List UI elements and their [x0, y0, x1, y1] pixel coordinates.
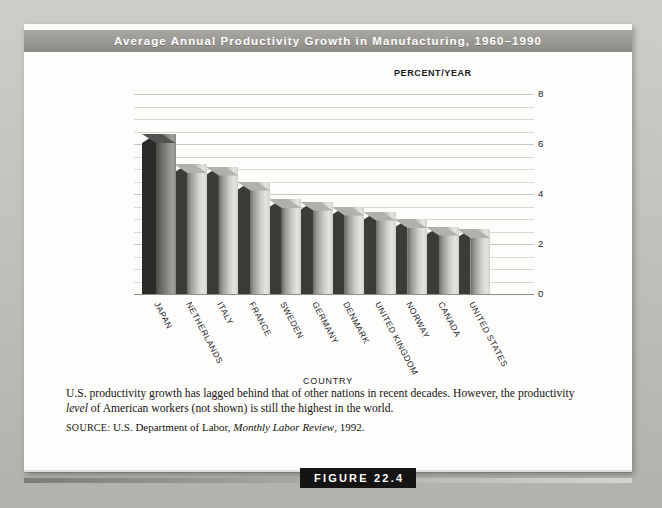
y-tick-label: 6	[538, 138, 543, 149]
bar	[250, 182, 270, 295]
bar	[282, 199, 302, 294]
y-axis-title: PERCENT/YEAR	[394, 68, 472, 78]
bar-series	[134, 94, 534, 294]
y-tick-label: 2	[538, 238, 543, 249]
bar-side	[236, 182, 250, 295]
bar	[156, 134, 176, 294]
page-background: Average Annual Productivity Growth in Ma…	[0, 0, 662, 508]
caption-emphasis: level	[66, 402, 88, 415]
bar	[187, 164, 207, 294]
figure-title-band: Average Annual Productivity Growth in Ma…	[24, 30, 632, 52]
x-tick-label: FRANCE	[247, 300, 274, 338]
plot-canvas: 02468	[134, 94, 534, 294]
bar	[345, 207, 365, 295]
source-publication: Monthly Labor Review	[233, 421, 334, 433]
bar-face	[219, 167, 239, 295]
bar-side	[425, 227, 439, 295]
figure-caption: U.S. productivity growth has lagged behi…	[66, 386, 590, 416]
x-tick-label: DENMARK	[341, 300, 371, 345]
x-axis-line	[134, 294, 534, 295]
bar-face	[345, 207, 365, 295]
caption-text-2: of American workers (not shown) is still…	[88, 402, 394, 415]
bar-side	[299, 202, 313, 295]
bar-face	[376, 212, 396, 295]
bar-side	[362, 212, 376, 295]
x-tick-label: CANADA	[436, 300, 463, 339]
source-label: SOURCE:	[66, 422, 110, 433]
figure-number-tag: FIGURE 22.4	[300, 468, 416, 488]
x-axis-title: COUNTRY	[24, 376, 632, 386]
bar-face	[156, 134, 176, 294]
figure-sheet: Average Annual Productivity Growth in Ma…	[24, 24, 632, 472]
bar	[439, 227, 459, 295]
figure-title: Average Annual Productivity Growth in Ma…	[114, 35, 542, 47]
bar-face	[250, 182, 270, 295]
bar-side	[142, 134, 156, 294]
figure-source: SOURCE: U.S. Department of Labor, Monthl…	[66, 421, 590, 433]
bar	[471, 229, 491, 294]
bar-side	[331, 207, 345, 295]
source-text-2: , 1992.	[334, 421, 364, 433]
bar	[313, 202, 333, 295]
bar-side	[173, 164, 187, 294]
bar-side	[205, 167, 219, 295]
bar-face	[282, 199, 302, 294]
plot-area: PERCENT/YEAR 02468 JAPANNETHERLANDSITALY…	[24, 58, 632, 418]
bar-face	[313, 202, 333, 295]
y-tick-label: 8	[538, 88, 543, 99]
bar-side	[394, 219, 408, 294]
y-tick-label: 0	[538, 288, 543, 299]
source-text-1: U.S. Department of Labor,	[110, 421, 233, 433]
caption-text-1: U.S. productivity growth has lagged behi…	[66, 387, 575, 400]
x-tick-label: ITALY	[216, 300, 237, 327]
bar	[376, 212, 396, 295]
bar-side	[268, 199, 282, 294]
bar-face	[187, 164, 207, 294]
x-tick-label: GERMANY	[310, 300, 341, 346]
bar	[219, 167, 239, 295]
bar-side	[457, 229, 471, 294]
bar-face	[471, 229, 491, 294]
y-tick-label: 4	[538, 188, 543, 199]
bar	[408, 219, 428, 294]
x-tick-label: UNITED STATES	[467, 300, 510, 369]
x-tick-label: NORWAY	[404, 300, 432, 340]
bar-face	[439, 227, 459, 295]
x-tick-label: SWEDEN	[278, 300, 306, 340]
bar-face	[408, 219, 428, 294]
x-tick-label: JAPAN	[153, 300, 176, 331]
